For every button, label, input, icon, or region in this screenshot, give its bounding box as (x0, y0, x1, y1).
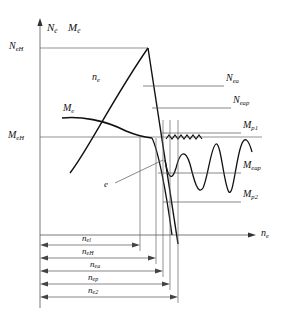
projection-lines (140, 120, 178, 303)
curve-label-ne: ne (92, 72, 100, 83)
y-axis-label-Ne: Ne (47, 22, 58, 35)
right-label-Neap: Neap (233, 95, 249, 106)
arrow-right-neH (148, 256, 156, 261)
dim-label-neH: neH (82, 247, 93, 257)
curve-ne-power (70, 48, 148, 173)
diagram-canvas: Ne Me NeH MeH ne ne Me e Nea Neap Mp1 Me… (0, 0, 294, 316)
y-axis-label-Me: Me (68, 22, 80, 35)
curve-label-Me: Me (63, 103, 74, 114)
arrow-left-nea (40, 269, 48, 274)
arrow-left-ne2 (40, 295, 48, 300)
axis-group (40, 22, 252, 308)
dim-label-ne2: ne2 (88, 286, 98, 296)
curve-label-e: e (104, 180, 108, 189)
arrow-right-ne2 (170, 295, 178, 300)
arrow-left-nep (40, 282, 48, 287)
level-lines (40, 48, 262, 137)
x-axis-arrowhead (248, 232, 256, 237)
right-label-Mp1: Mp1 (243, 120, 258, 131)
arrow-right-nea (155, 269, 163, 274)
dim-label-nel: nel (82, 234, 91, 244)
dim-label-nea: nea (90, 260, 100, 270)
y-axis-arrowhead (37, 18, 42, 26)
curve-Me-torque (62, 118, 152, 138)
dim-label-nep: nep (88, 273, 98, 283)
y-tick-label-NeH: NeH (9, 41, 23, 52)
right-label-Nea: Nea (226, 73, 239, 84)
arrow-left-neH (40, 256, 48, 261)
arrow-right-nep (162, 282, 170, 287)
right-label-Mp2: Mp2 (243, 189, 258, 200)
arrow-left-nel (40, 243, 48, 248)
dimension-lines (44, 245, 174, 297)
y-tick-label-MeH: MeH (8, 130, 24, 141)
diagram-vector-layer (0, 0, 294, 316)
right-label-Meap: Meap (243, 160, 261, 171)
x-axis-label-ne: ne (261, 228, 269, 239)
arrow-right-nel (132, 243, 140, 248)
